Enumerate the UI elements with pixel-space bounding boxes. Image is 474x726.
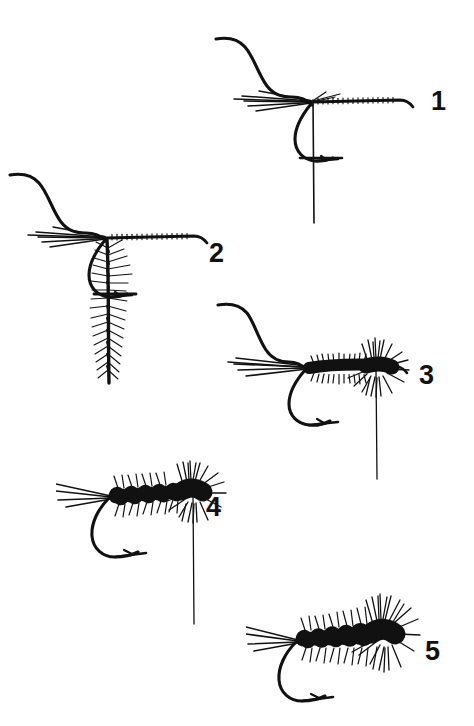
tail-fibers	[234, 91, 311, 111]
illustration-page: 1	[0, 0, 474, 726]
step-5-figure	[246, 592, 436, 722]
collar-hackle-core	[372, 629, 395, 634]
hook-barb	[317, 419, 324, 423]
tail-fibers	[28, 227, 105, 247]
step-3-number: 3	[419, 362, 434, 389]
hook-barb	[311, 694, 319, 698]
hook-eye-and-shank	[10, 174, 106, 241]
step-5-number: 5	[425, 638, 440, 665]
hook-eye-and-shank	[216, 38, 312, 105]
tail-fibers	[228, 358, 307, 376]
hanging-thread	[313, 100, 314, 223]
step-1-figure	[214, 34, 424, 224]
head-hackle-core	[366, 364, 392, 367]
head-hackle-core	[182, 488, 203, 492]
step-2-number: 2	[209, 240, 224, 267]
palmered-body-segments	[116, 490, 178, 497]
hackle-feather-barbs	[90, 240, 132, 379]
step-3-figure	[216, 300, 416, 480]
palmered-body-segments	[303, 632, 365, 640]
hook-barb	[124, 550, 132, 554]
step-1-number: 1	[431, 88, 446, 115]
step-4-figure	[56, 460, 236, 625]
hook-eye-and-shank	[218, 304, 307, 370]
step-2-figure	[8, 170, 223, 385]
step-4-number: 4	[206, 494, 221, 521]
hook-bend	[279, 642, 325, 701]
